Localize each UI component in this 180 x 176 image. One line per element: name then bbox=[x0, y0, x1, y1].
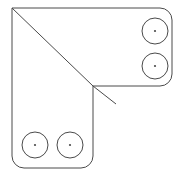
hole-group-top-right-lower bbox=[142, 53, 168, 79]
drawing-canvas bbox=[0, 0, 180, 176]
bracket-drawing bbox=[0, 0, 180, 176]
hole-group-top-right-upper bbox=[142, 18, 168, 44]
hole-group-bottom-left-left bbox=[22, 132, 48, 158]
hole-center-dot-bottom-left-left bbox=[34, 144, 36, 146]
main-diagonal-line bbox=[12, 8, 93, 86]
secondary-diagonal-line bbox=[93, 86, 116, 104]
hole-center-dot-top-right-upper bbox=[154, 30, 156, 32]
hole-center-dot-top-right-lower bbox=[154, 65, 156, 67]
hole-center-dot-bottom-left-right bbox=[69, 144, 71, 146]
hole-group-bottom-left-right bbox=[57, 132, 83, 158]
l-shaped-bracket-outline bbox=[12, 8, 172, 168]
